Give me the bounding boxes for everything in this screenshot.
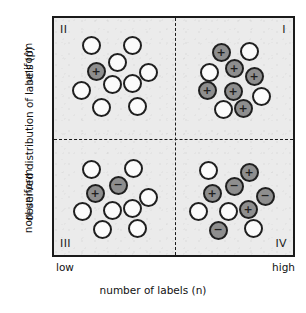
quadrant-label-I: I: [282, 24, 286, 35]
quadrant-label-IV: IV: [275, 238, 287, 249]
data-point-iii: [93, 220, 112, 239]
minus-label-icon: −: [213, 224, 222, 235]
plus-label-icon: +: [207, 187, 216, 198]
data-point-iii: [103, 201, 122, 220]
data-point-iv: +: [240, 163, 259, 182]
data-point-i: [240, 42, 259, 61]
data-point-iv: −: [225, 177, 244, 196]
data-point-i: +: [225, 59, 244, 78]
data-point-iv: +: [203, 184, 222, 203]
data-point-iv: [244, 219, 263, 238]
data-point-ii: [103, 75, 122, 94]
data-point-i: +: [198, 81, 217, 100]
data-point-iii: [128, 219, 147, 238]
plot-area: II I III IV +++++++−++−+−+−: [52, 16, 295, 257]
quadrant-label-III: III: [60, 238, 71, 249]
plus-label-icon: +: [243, 203, 252, 214]
data-point-iv: −: [209, 221, 228, 240]
data-point-iv: [199, 161, 218, 180]
x-axis-tick-high: high: [272, 261, 295, 273]
data-point-iii: [139, 188, 158, 207]
data-point-ii: [92, 98, 111, 117]
data-point-iii: −: [109, 176, 128, 195]
plus-label-icon: +: [91, 65, 100, 76]
data-point-i: [200, 63, 219, 82]
plus-label-icon: +: [238, 102, 247, 113]
data-point-ii: [72, 81, 91, 100]
data-point-ii: [139, 63, 158, 82]
plus-label-icon: +: [216, 46, 225, 57]
minus-label-icon: −: [113, 179, 122, 190]
data-point-iii: [123, 199, 142, 218]
plus-label-icon: +: [244, 166, 253, 177]
data-point-ii: [128, 97, 147, 116]
quadrant-divider-horizontal: [54, 139, 293, 140]
data-point-iv: [219, 202, 238, 221]
data-point-ii: [82, 36, 101, 55]
data-point-iii: +: [86, 184, 105, 203]
plus-label-icon: +: [249, 70, 258, 81]
data-point-i: +: [245, 67, 264, 86]
data-point-iv: +: [239, 200, 258, 219]
minus-label-icon: −: [229, 180, 238, 191]
data-point-iii: [82, 160, 101, 179]
quadrant-divider-vertical: [175, 18, 176, 255]
data-point-iv: −: [256, 187, 275, 206]
plus-label-icon: +: [228, 85, 237, 96]
data-point-i: [214, 100, 233, 119]
data-point-i: +: [212, 43, 231, 62]
plus-label-icon: +: [90, 187, 99, 198]
data-point-iv: [189, 202, 208, 221]
x-axis-title: number of labels (n): [0, 284, 306, 296]
quadrant-label-II: II: [60, 24, 67, 35]
plus-label-icon: +: [229, 62, 238, 73]
data-point-ii: [123, 74, 142, 93]
data-point-ii: +: [87, 62, 106, 81]
y-axis-tick-non-uniform: non-uniform: [22, 145, 34, 257]
data-point-ii: [123, 36, 142, 55]
minus-label-icon: −: [260, 190, 269, 201]
data-point-ii: [108, 53, 127, 72]
x-axis-tick-low: low: [56, 261, 74, 273]
quadrant-scatter-figure: observed distribution of labels (p̂) uni…: [0, 0, 306, 313]
data-point-i: [252, 87, 271, 106]
plus-label-icon: +: [202, 84, 211, 95]
y-axis-tick-uniform: uniform: [22, 18, 34, 108]
data-point-iii: [124, 159, 143, 178]
data-point-i: +: [234, 99, 253, 118]
data-point-i: +: [224, 82, 243, 101]
data-point-iii: [73, 202, 92, 221]
